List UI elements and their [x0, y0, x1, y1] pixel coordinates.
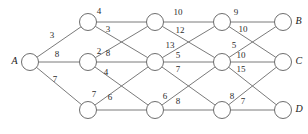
edge-weight-n2-n6: 4: [104, 67, 109, 77]
edge-weight-n4-n8: 12: [176, 25, 185, 35]
edge-weight-n6-n9: 8: [176, 96, 181, 106]
node-A: [22, 54, 39, 71]
edge-weight-n5-n9: 7: [176, 64, 181, 74]
edge-weight-n7-C: 10: [239, 24, 249, 34]
node-D: [275, 102, 292, 119]
node-n1: [80, 14, 97, 31]
node-n2: [80, 54, 97, 71]
edge-weight-A-n2: 8: [55, 49, 60, 59]
node-label-A: A: [10, 55, 18, 66]
edge-weight-n8-D: 15: [237, 64, 247, 74]
edge-weight-n6-n8: 6: [163, 91, 168, 101]
edge-weight-n3-n6: 7: [92, 89, 97, 99]
node-B: [275, 14, 292, 31]
node-label-B: B: [296, 15, 302, 26]
node-n5: [147, 54, 164, 71]
node-label-D: D: [295, 103, 304, 114]
edge-weight-n2-n5: 2: [97, 46, 102, 56]
edge-weight-n8-C: 10: [237, 50, 247, 60]
node-n3: [80, 102, 97, 119]
edge-weight-A-n3: 7: [53, 74, 58, 84]
node-n6: [147, 102, 164, 119]
node-n8: [214, 54, 231, 71]
edge-weight-n5-n7: 13: [166, 40, 176, 50]
node-n7: [214, 14, 231, 31]
edge-weight-n4-n7: 10: [174, 7, 184, 17]
edge-A-n3: [37, 67, 82, 104]
edge-weight-n7-B: 9: [234, 7, 239, 17]
node-label-C: C: [296, 55, 303, 66]
edge-weight-n3-n5: 6: [108, 92, 113, 102]
edge-weight-n9-C: 8: [230, 91, 235, 101]
edge-weight-n1-n5: 3: [106, 24, 111, 34]
edge-weight-n8-B: 5: [232, 40, 237, 50]
network-diagram: 387438246710121357689105101587 ABCD: [0, 0, 308, 134]
node-n9: [214, 102, 231, 119]
edge-weight-n2-n4: 8: [106, 48, 111, 58]
graph-canvas: 387438246710121357689105101587 ABCD: [0, 0, 308, 134]
edge-weight-n1-n4: 4: [97, 6, 102, 16]
edge-weight-n9-D: 7: [241, 96, 246, 106]
edge-weight-A-n1: 3: [50, 30, 55, 40]
edge-weight-n5-n8: 5: [176, 50, 181, 60]
nodes-layer: [22, 14, 292, 119]
node-C: [275, 54, 292, 71]
node-n4: [147, 14, 164, 31]
